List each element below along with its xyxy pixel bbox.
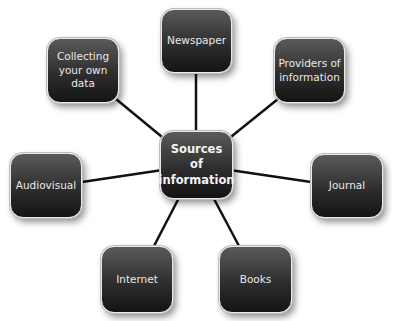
node-label: Journal	[329, 179, 365, 193]
node-label: Books	[240, 273, 272, 287]
node-journal: Journal	[311, 154, 383, 218]
node-books: Books	[219, 246, 292, 313]
node-label: Internet	[116, 273, 158, 287]
node-newspaper: Newspaper	[161, 9, 232, 73]
node-audiovisual: Audiovisual	[10, 153, 82, 218]
node-center-sources-of-information: Sources of information	[160, 131, 233, 199]
node-label: Audiovisual	[16, 179, 76, 193]
node-label: Collecting your own data	[57, 50, 109, 91]
node-label: Providers of information	[278, 57, 340, 84]
node-collecting-your-own-data: Collecting your own data	[47, 38, 119, 103]
node-internet: Internet	[101, 246, 173, 313]
center-label: Sources of information	[159, 142, 235, 189]
node-label: Newspaper	[167, 34, 226, 48]
node-providers-of-information: Providers of information	[274, 38, 345, 103]
